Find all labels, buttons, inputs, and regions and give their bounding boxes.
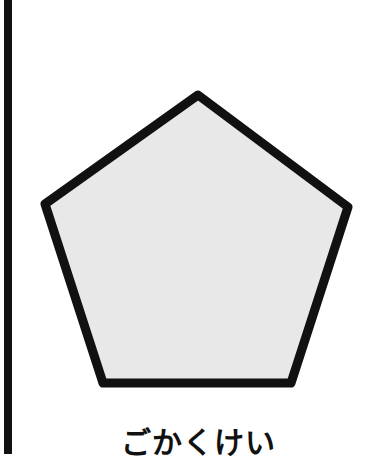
shape-caption: ごかくけい xyxy=(0,425,374,461)
pentagon-polygon xyxy=(45,95,348,383)
